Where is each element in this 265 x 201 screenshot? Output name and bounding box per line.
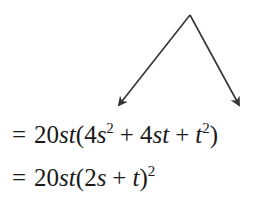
open-paren: ( <box>76 164 84 191</box>
variable-s: s <box>59 121 69 148</box>
right-arrow <box>190 15 239 105</box>
term1-var: s <box>97 121 107 148</box>
coefficient: 20 <box>34 164 59 191</box>
variable-s: s <box>59 164 69 191</box>
exponent: 2 <box>148 163 156 179</box>
plus-sign: + <box>112 164 126 191</box>
term2-var-s: s <box>152 121 162 148</box>
open-paren: ( <box>76 121 84 148</box>
term3-exponent: 2 <box>202 120 210 136</box>
equation-expanded: =20st(4s2+4st+t2) <box>12 122 218 147</box>
term2-coef: 4 <box>140 121 153 148</box>
equals-sign: = <box>12 121 26 148</box>
close-paren: ) <box>210 121 218 148</box>
close-paren: ) <box>139 164 147 191</box>
equation-factored: =20st(2s+t)2 <box>12 165 155 190</box>
term1-var: s <box>97 164 107 191</box>
coefficient: 20 <box>34 121 59 148</box>
plus-sign: + <box>175 121 189 148</box>
term2-var-t: t <box>162 121 169 148</box>
plus-sign: + <box>120 121 134 148</box>
variable-t: t <box>69 164 76 191</box>
term1-coef: 2 <box>84 164 97 191</box>
equals-sign: = <box>12 164 26 191</box>
term1-exponent: 2 <box>106 120 114 136</box>
term1-coef: 4 <box>84 121 97 148</box>
variable-t: t <box>69 121 76 148</box>
branching-arrows <box>0 0 265 115</box>
left-arrow <box>119 15 190 105</box>
